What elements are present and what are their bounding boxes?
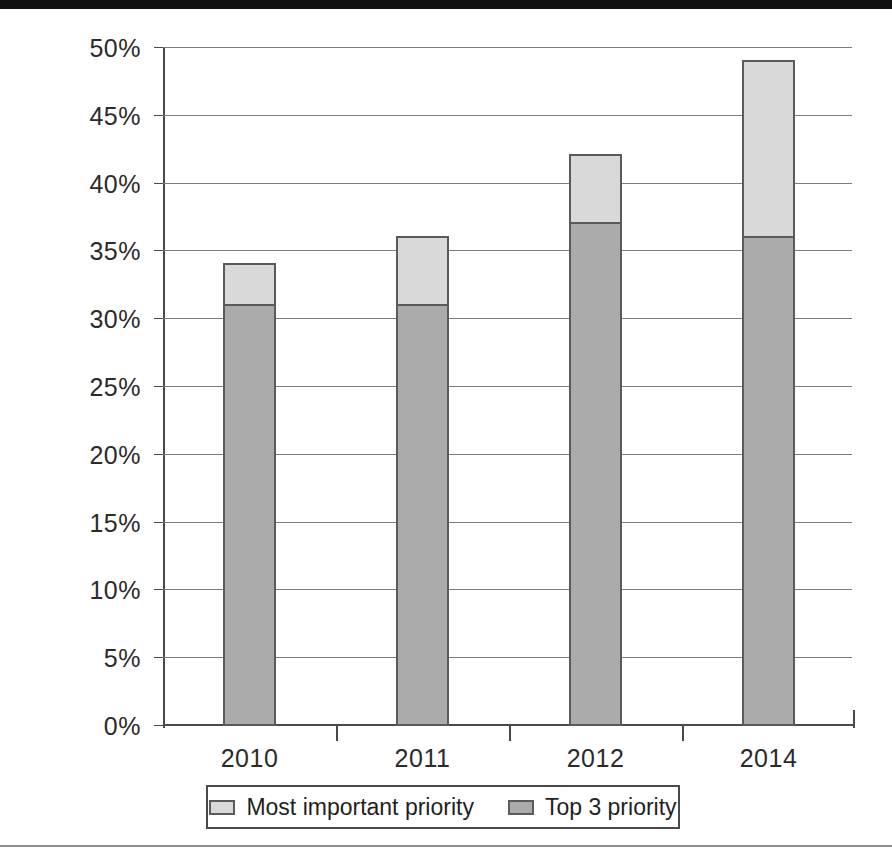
y-axis-label: 20%	[89, 440, 141, 469]
bar-segment-most-important-priority[interactable]	[569, 154, 622, 224]
y-axis-label: 30%	[89, 305, 141, 334]
bar-segment-top-3-priority[interactable]	[569, 222, 622, 726]
y-axis-tick	[154, 115, 163, 116]
y-axis-spine	[163, 48, 165, 728]
y-axis-label: 15%	[89, 508, 141, 537]
chart-legend: Most important priorityTop 3 priority	[206, 785, 680, 829]
x-axis-tick	[336, 726, 338, 741]
y-axis-label: 35%	[89, 237, 141, 266]
legend-swatch-most-important-priority	[209, 800, 235, 815]
y-axis-tick	[154, 47, 163, 48]
x-axis-label: 2012	[567, 744, 625, 773]
y-axis-label: 0%	[104, 712, 141, 741]
y-axis-label: 40%	[89, 169, 141, 198]
bar-segment-most-important-priority[interactable]	[396, 236, 449, 306]
x-axis-tick	[509, 726, 511, 741]
bar-segment-most-important-priority[interactable]	[223, 263, 276, 306]
y-axis-tick	[154, 657, 163, 658]
bar-group[interactable]	[742, 62, 795, 726]
y-axis-label: 50%	[89, 34, 141, 63]
scan-artifact-bottom-rule	[0, 845, 892, 847]
plot-area: 50%45%40%35%30%25%20%15%10%5%0%	[163, 48, 855, 726]
y-axis-tick	[154, 250, 163, 251]
scan-artifact-top-band	[0, 0, 892, 9]
bar-segment-most-important-priority[interactable]	[742, 60, 795, 238]
legend-item[interactable]: Top 3 priority	[508, 794, 677, 821]
bar-group[interactable]	[396, 238, 449, 726]
gridline	[163, 47, 852, 48]
y-axis-label: 25%	[89, 373, 141, 402]
y-axis-label: 10%	[89, 576, 141, 605]
legend-item[interactable]: Most important priority	[209, 794, 474, 821]
chart-figure: 50%45%40%35%30%25%20%15%10%5%0% 20102011…	[0, 9, 892, 845]
y-axis-tick	[154, 725, 163, 726]
x-axis-label: 2010	[221, 744, 279, 773]
y-axis-tick	[154, 589, 163, 590]
bar-group[interactable]	[223, 265, 276, 726]
x-axis-ticks	[163, 726, 855, 742]
bar-segment-top-3-priority[interactable]	[223, 304, 276, 726]
y-axis-tick	[154, 386, 163, 387]
y-axis-label: 45%	[89, 101, 141, 130]
x-axis-label: 2014	[740, 744, 798, 773]
legend-item-label: Top 3 priority	[545, 794, 677, 821]
y-axis-tick	[154, 522, 163, 523]
x-axis-tick	[682, 726, 684, 741]
bar-group[interactable]	[569, 156, 622, 726]
legend-swatch-top-3-priority	[508, 800, 534, 815]
y-axis-label: 5%	[104, 644, 141, 673]
x-axis-label: 2011	[395, 744, 451, 773]
bar-segment-top-3-priority[interactable]	[742, 236, 795, 726]
y-axis-tick	[154, 183, 163, 184]
y-axis-tick	[154, 318, 163, 319]
bar-segment-top-3-priority[interactable]	[396, 304, 449, 726]
y-axis-tick	[154, 454, 163, 455]
legend-item-label: Most important priority	[246, 794, 474, 821]
